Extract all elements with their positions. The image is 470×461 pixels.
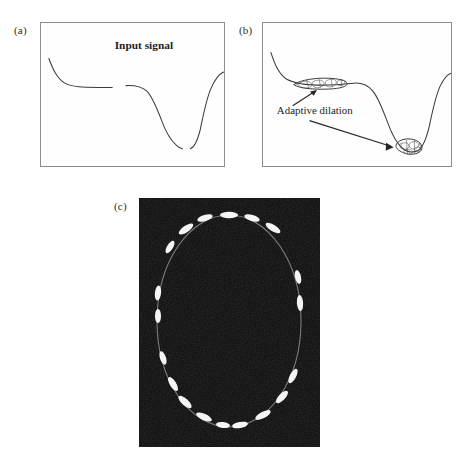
panel-label-a: (a) bbox=[14, 24, 27, 36]
panel-label-b: (b) bbox=[239, 24, 252, 36]
panel-c-ellipse-image bbox=[139, 198, 320, 447]
figure-root: (a) Input signal (b) bbox=[0, 0, 470, 461]
signal-segment-right bbox=[190, 72, 224, 149]
arrow-to-valley-blob bbox=[310, 121, 394, 151]
panel-b-adaptive-dilation: Adaptive dilation bbox=[262, 22, 452, 167]
panel-label-c: (c) bbox=[114, 200, 127, 212]
signal-segment-middle bbox=[126, 86, 182, 149]
adaptive-dilation-label: Adaptive dilation bbox=[277, 104, 353, 116]
signal-segment-left bbox=[49, 59, 112, 88]
panel-a-input-signal: Input signal bbox=[40, 22, 225, 167]
input-signal-title: Input signal bbox=[115, 39, 173, 51]
image-noise-texture bbox=[139, 198, 320, 447]
